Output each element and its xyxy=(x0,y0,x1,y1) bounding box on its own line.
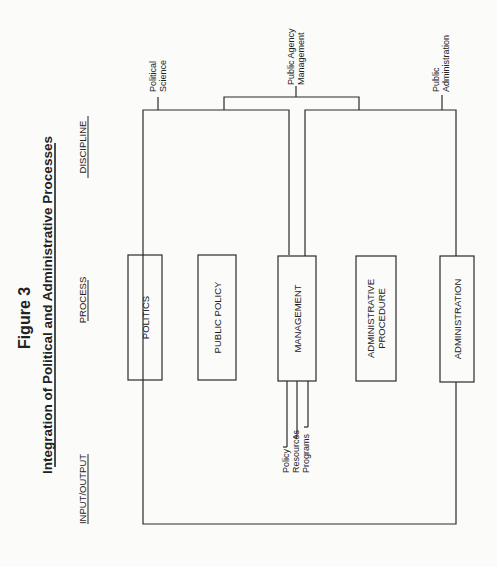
figure-heading: Figure 3 Integration of Political and Ad… xyxy=(16,136,55,474)
process-diagram: Figure 3 Integration of Political and Ad… xyxy=(0,0,497,567)
header-input-output: INPUT/OUTPUT xyxy=(77,454,88,524)
output-programs-label: Programs xyxy=(301,433,311,473)
administration-label: ADMINISTRATION xyxy=(452,279,463,360)
figure-number: Figure 3 xyxy=(16,287,33,349)
management-bracket xyxy=(224,97,359,110)
public-administration-label-line1: Public xyxy=(431,67,441,92)
right-frame-line xyxy=(305,110,456,256)
politics-label: POLITICS xyxy=(140,296,151,339)
process-box-politics: POLITICS xyxy=(128,255,162,380)
figure-title: Integration of Political and Administrat… xyxy=(40,136,55,474)
discipline-public-administration: Public Administration xyxy=(431,35,451,92)
output-policy-label: Policy xyxy=(281,448,291,473)
discipline-political-science: Political Science xyxy=(148,60,168,92)
figure-page: Figure 3 Integration of Political and Ad… xyxy=(0,0,497,567)
administrative-procedure-label-line2: PROCEDURE xyxy=(376,288,387,349)
process-box-administration: ADMINISTRATION xyxy=(440,256,474,382)
management-outputs: Policy Resources Programs xyxy=(281,429,311,473)
public-administration-label-line2: Administration xyxy=(441,35,451,92)
process-box-administrative-procedure: ADMINISTRATIVE PROCEDURE xyxy=(356,256,396,381)
output-resources-label: Resources xyxy=(291,429,301,473)
management-label: MANAGEMENT xyxy=(292,284,303,352)
public-agency-management-label-line1: Public Agency xyxy=(286,28,296,85)
political-science-label-line2: Science xyxy=(158,60,168,92)
header-discipline: DISCIPLINE xyxy=(77,121,88,174)
public-agency-management-label-line2: Management xyxy=(296,32,306,85)
political-science-label-line1: Political xyxy=(148,61,158,92)
column-headers: DISCIPLINE PROCESS INPUT/OUTPUT xyxy=(77,116,88,524)
administrative-procedure-label-line1: ADMINISTRATIVE xyxy=(365,279,376,358)
process-box-management: MANAGEMENT xyxy=(278,256,316,381)
public-policy-label: PUBLIC POLICY xyxy=(212,281,223,353)
process-box-public-policy: PUBLIC POLICY xyxy=(198,255,236,380)
header-process: PROCESS xyxy=(77,277,88,323)
discipline-public-agency-management: Public Agency Management xyxy=(286,28,306,85)
